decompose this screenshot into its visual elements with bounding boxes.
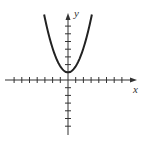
x-axis-arrow-icon [130,78,137,83]
y-axis-label: y [74,7,79,19]
coordinate-plane [0,0,144,143]
x-axis-label: x [133,83,138,95]
y-axis-arrow-icon [66,13,71,20]
